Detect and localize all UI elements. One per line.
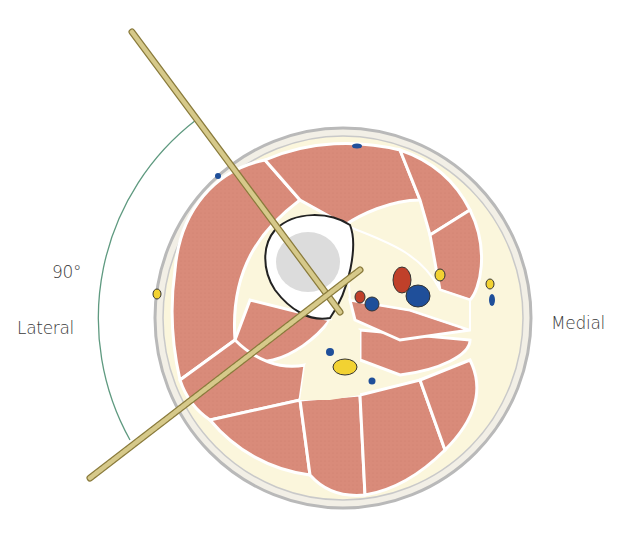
sciatic-nerve	[333, 359, 357, 375]
lateral-nerve	[153, 289, 161, 299]
vessel-posterior	[326, 348, 334, 356]
vessel-posterior-2	[369, 378, 376, 385]
great-saphenous-vein	[489, 294, 495, 306]
great-saphenous-nerve	[486, 279, 494, 289]
saphenous-nerve	[435, 269, 445, 281]
deep-artery	[355, 291, 365, 303]
medial-label: Medial	[551, 313, 605, 333]
superficial-vein-left	[215, 173, 221, 179]
lateral-label: Lateral	[17, 318, 74, 338]
superficial-vein-top	[352, 144, 362, 149]
angle-label: 90°	[52, 262, 81, 282]
thigh-cross-section-diagram	[0, 0, 624, 541]
deep-vein	[365, 297, 379, 311]
femoral-vein	[406, 285, 430, 307]
